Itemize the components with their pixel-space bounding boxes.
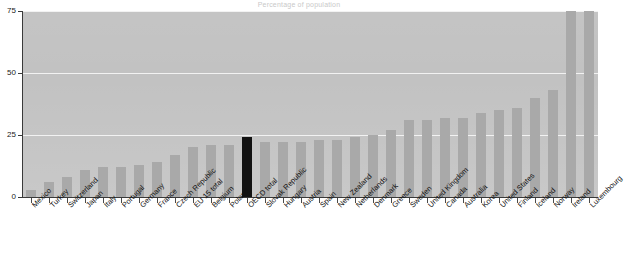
y-tick-mark xyxy=(18,197,22,198)
bar xyxy=(26,190,36,197)
y-tick-mark xyxy=(18,73,22,74)
y-tick-label: 50 xyxy=(7,68,16,77)
y-tick-label: 0 xyxy=(12,192,16,201)
y-tick-mark xyxy=(18,135,22,136)
bar xyxy=(332,140,342,197)
y-tick-label: 25 xyxy=(7,130,16,139)
bar xyxy=(494,110,504,197)
y-tick-label: 75 xyxy=(7,6,16,15)
bar xyxy=(404,120,414,197)
chart-title: Percentage of population xyxy=(0,0,598,9)
bar xyxy=(566,11,576,197)
bar xyxy=(548,90,558,197)
gridline xyxy=(22,73,598,74)
bar xyxy=(116,167,126,197)
y-axis-line xyxy=(22,11,23,198)
y-tick-mark xyxy=(18,11,22,12)
plot-area xyxy=(22,11,598,197)
gridline xyxy=(22,11,598,12)
bar xyxy=(584,11,594,197)
